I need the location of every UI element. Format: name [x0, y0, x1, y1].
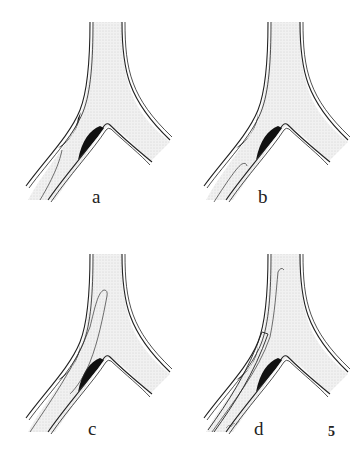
panel-label: c — [88, 418, 96, 440]
panel-label: a — [92, 186, 100, 208]
vessel-bifurcation-illustration — [0, 0, 178, 232]
figure-number: 5 — [328, 424, 335, 440]
panel-b: b — [178, 0, 356, 232]
panel-c: c — [0, 232, 178, 464]
panel-label: d — [254, 418, 264, 440]
panel-a: a — [0, 0, 178, 232]
panel-label: b — [258, 186, 268, 208]
